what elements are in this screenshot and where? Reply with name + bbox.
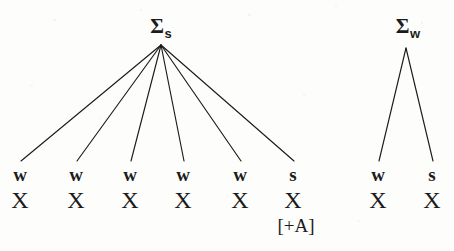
timing-slot: X [423, 188, 440, 212]
terminal-label: w [123, 165, 137, 184]
edge-left-3 [131, 45, 161, 161]
timing-slot: X [231, 188, 248, 212]
terminal-label: w [13, 165, 27, 184]
sigma-subscript-right: w [410, 26, 420, 41]
timing-slot: X [67, 188, 84, 212]
timing-slot: X [121, 188, 138, 212]
terminal-label: w [371, 165, 385, 184]
figure-canvas: Σs w w w w w s X X X X X X [+A] Σw w s X… [0, 0, 454, 251]
root-node-right: Σw [396, 16, 420, 40]
timing-slot: X [369, 188, 386, 212]
timing-slot: X [11, 188, 28, 212]
edge-right-2 [406, 48, 433, 161]
terminal-label: w [176, 165, 190, 184]
terminal-label: s [289, 165, 296, 184]
edge-left-2 [77, 45, 161, 161]
sigma-symbol-right: Σ [396, 14, 410, 38]
timing-slot: X [284, 188, 301, 212]
terminal-label: w [69, 165, 83, 184]
edge-left-1 [21, 45, 161, 161]
terminal-label: s [428, 165, 435, 184]
timing-slot: X [174, 188, 191, 212]
root-node-left: Σs [150, 16, 171, 40]
sigma-symbol-left: Σ [150, 14, 164, 38]
edge-right-1 [379, 48, 406, 161]
feature-annotation: [+A] [277, 216, 314, 235]
tree-edges [0, 0, 454, 251]
sigma-subscript-left: s [165, 26, 172, 41]
terminal-label: w [233, 165, 247, 184]
